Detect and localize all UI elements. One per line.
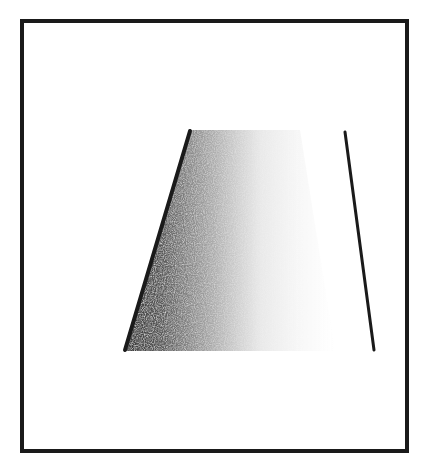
diagram-canvas: [0, 0, 427, 468]
right-edge-line: [345, 132, 374, 350]
